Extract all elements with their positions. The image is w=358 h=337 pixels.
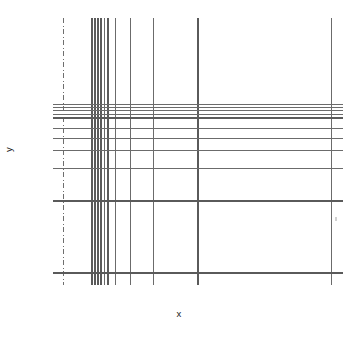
faint-stray-mark	[335, 217, 337, 221]
plot-figure: x y	[0, 0, 358, 337]
plot-canvas	[0, 0, 358, 337]
x-axis-label: x	[0, 308, 358, 319]
y-axis-label: y	[3, 130, 14, 170]
